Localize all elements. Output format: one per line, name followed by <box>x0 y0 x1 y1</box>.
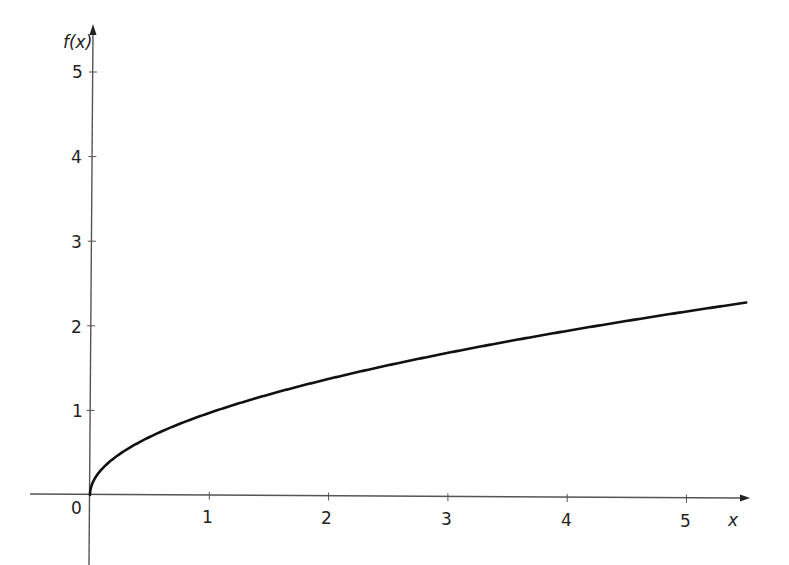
tick-labels: 0 1 2 3 4 5 x 1 2 3 4 5 f(x) <box>63 32 739 531</box>
x-axis-arrow-icon <box>740 495 750 502</box>
sqrt-function-plot: 0 1 2 3 4 5 x 1 2 3 4 5 f(x) <box>0 0 789 565</box>
x-tick-label-2: 2 <box>321 508 332 528</box>
x-tick-label-4: 4 <box>561 510 572 530</box>
x-axis <box>30 494 742 498</box>
function-curve <box>90 303 746 495</box>
chart-figure: 0 1 2 3 4 5 x 1 2 3 4 5 f(x) <box>0 0 789 565</box>
y-tick-label-1: 1 <box>72 401 83 421</box>
x-tick-label-5: 5 <box>680 511 691 531</box>
tick-marks <box>87 72 687 503</box>
x-tick-label-3: 3 <box>441 509 452 529</box>
y-tick-label-4: 4 <box>71 147 82 167</box>
x-tick-label-1: 1 <box>202 507 213 527</box>
y-tick-label-2: 2 <box>71 317 82 337</box>
axes <box>30 24 750 565</box>
y-axis-label: f(x) <box>63 32 92 52</box>
x-axis-label: x <box>727 510 739 530</box>
origin-label: 0 <box>71 498 82 518</box>
y-tick-label-5: 5 <box>72 62 83 82</box>
y-tick-label-3: 3 <box>71 232 82 252</box>
